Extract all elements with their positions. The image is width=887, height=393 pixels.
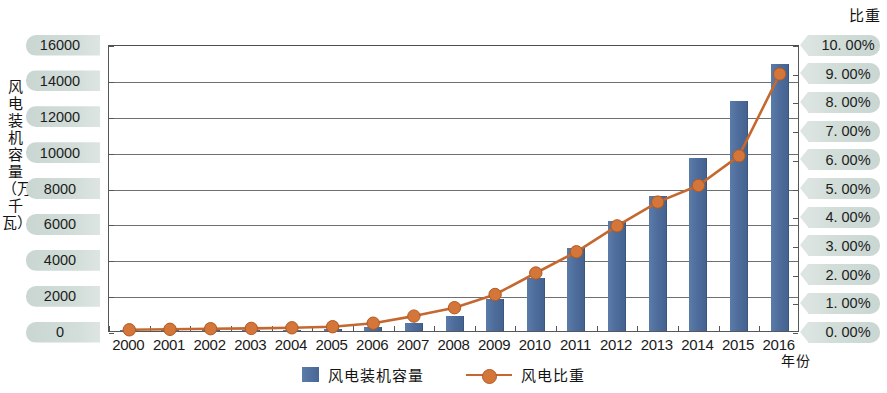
y-axis-left-tick-label: 12000 [26,106,100,127]
axis-tick [793,333,798,334]
legend-label-line: 风电比重 [521,364,585,385]
line-data-point [448,302,460,314]
line-data-point [611,220,623,232]
y-axis-left-tick-label: 0 [26,322,100,343]
y-axis-right-tick-label: 9. 00% [808,63,880,84]
line-data-point [204,323,216,335]
line-data-point [570,246,582,258]
legend-item-line[interactable]: 风电比重 [466,364,585,385]
y-axis-right-tick-label: 7. 00% [808,121,880,142]
legend-item-bar[interactable]: 风电装机容量 [302,364,424,385]
y-axis-right-tick-label: 8. 00% [808,92,880,113]
y-axis-right-title: 比重 [849,4,881,25]
line-data-point [733,150,745,162]
x-axis-tick-label: 2016 [753,336,805,353]
line-data-point [245,322,257,334]
axis-tick [109,333,114,334]
line-data-point [530,267,542,279]
y-axis-right-tick-label: 2. 00% [808,264,880,285]
y-axis-left-tick-label: 16000 [26,35,100,56]
y-axis-right-tick-label: 5. 00% [808,178,880,199]
y-axis-left-tick-label: 10000 [26,142,100,163]
y-axis-left-tick-label: 14000 [26,70,100,91]
line-data-point [286,322,298,334]
line-data-point [692,179,704,191]
y-axis-right-tick-label: 3. 00% [808,235,880,256]
line-data-point [164,323,176,335]
plot-area [108,45,799,332]
line-data-point [774,68,786,80]
y-axis-left-tick-label: 2000 [26,286,100,307]
line-data-point [123,324,135,336]
line-data-point [489,288,501,300]
line-data-point [367,317,379,329]
line-marker-icon [466,368,512,382]
wind-power-capacity-chart: 风电装机容量（万千瓦） 比重 年份 1600014000120001000080… [0,0,887,393]
y-axis-left-title: 风电装机容量（万千瓦） [2,78,28,231]
y-axis-right-tick-label: 6. 00% [808,149,880,170]
line-data-point [326,321,338,333]
y-axis-right-tick-label: 1. 00% [808,293,880,314]
y-axis-left-tick-label: 8000 [26,178,100,199]
line-series [109,46,800,333]
y-axis-left-tick-label: 6000 [26,214,100,235]
bar-swatch-icon [302,367,319,382]
y-axis-right-tick-label: 10. 00% [808,35,880,56]
legend-label-bar: 风电装机容量 [328,364,424,385]
chart-legend: 风电装机容量 风电比重 [0,364,887,385]
line-data-point [408,310,420,322]
trend-line [129,74,779,330]
y-axis-right-tick-label: 0. 00% [808,322,880,343]
line-data-point [652,196,664,208]
y-axis-right-tick-label: 4. 00% [808,207,880,228]
y-axis-left-tick-label: 4000 [26,250,100,271]
